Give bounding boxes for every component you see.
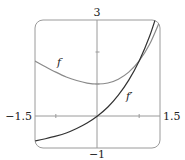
chart: 3 −1 −1.5 1.5 f f′ [0,0,185,160]
f-curve-label: f [56,56,63,69]
f-prime-curve-label: f′ [125,90,133,103]
x-min-label: −1.5 [5,110,32,123]
y-max-label: 3 [94,6,101,19]
y-min-label: −1 [89,148,105,160]
x-max-label: 1.5 [163,110,181,123]
